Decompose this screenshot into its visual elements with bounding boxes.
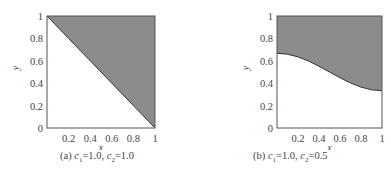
x-axis-label: x xyxy=(98,142,104,150)
caption-a-c1-value: =1.0, xyxy=(82,150,104,161)
y-tick-label: 0.4 xyxy=(260,78,274,89)
plot-a: 00.20.40.60.810.20.40.60.81xy xyxy=(0,0,195,150)
y-tick-label: 1 xyxy=(38,11,43,22)
caption-b-c2-value: =0.5 xyxy=(309,150,328,161)
x-tick-label: 0.2 xyxy=(62,133,75,144)
x-tick-label: 0.8 xyxy=(354,133,367,144)
x-tick-label: 0.8 xyxy=(127,133,140,144)
y-tick-label: 0 xyxy=(38,123,43,134)
x-tick-label: 0.6 xyxy=(105,133,118,144)
caption-b: (b) c1=1.0, c2=0.5 xyxy=(253,150,328,164)
caption-a: (a) c1=1.0, c2=1.0 xyxy=(60,150,134,164)
caption-b-c1-value: =1.0, xyxy=(276,150,298,161)
x-tick-label: 0.2 xyxy=(291,133,304,144)
y-tick-label: 0.2 xyxy=(260,101,273,112)
caption-a-label: (a) xyxy=(60,150,72,161)
x-tick-label: 1 xyxy=(379,133,384,144)
y-tick-label: 0 xyxy=(268,123,273,134)
x-tick-label: 0.4 xyxy=(312,133,326,144)
y-tick-label: 0.8 xyxy=(30,33,43,44)
x-tick-label: 0.6 xyxy=(333,133,346,144)
y-tick-label: 0.2 xyxy=(30,101,43,112)
shaded-region xyxy=(277,16,382,91)
y-axis-label: y xyxy=(10,65,21,71)
caption-a-c2-value: =1.0 xyxy=(115,150,134,161)
y-tick-label: 0.8 xyxy=(260,33,273,44)
x-tick-label: 0.4 xyxy=(84,133,98,144)
y-tick-label: 1 xyxy=(268,11,273,22)
y-tick-label: 0.6 xyxy=(260,56,273,67)
caption-b-label: (b) xyxy=(253,150,265,161)
y-tick-label: 0.6 xyxy=(30,56,43,67)
x-tick-label: 1 xyxy=(152,133,157,144)
chart-panel-a: 00.20.40.60.810.20.40.60.81xy (a) c1=1.0… xyxy=(0,0,195,178)
x-axis-label: x xyxy=(326,142,332,150)
y-tick-label: 0.4 xyxy=(30,78,44,89)
y-axis-label: y xyxy=(240,65,251,71)
plot-b: 00.20.40.60.810.20.40.60.81xy xyxy=(195,0,391,150)
chart-panel-b: 00.20.40.60.810.20.40.60.81xy (b) c1=1.0… xyxy=(195,0,390,178)
